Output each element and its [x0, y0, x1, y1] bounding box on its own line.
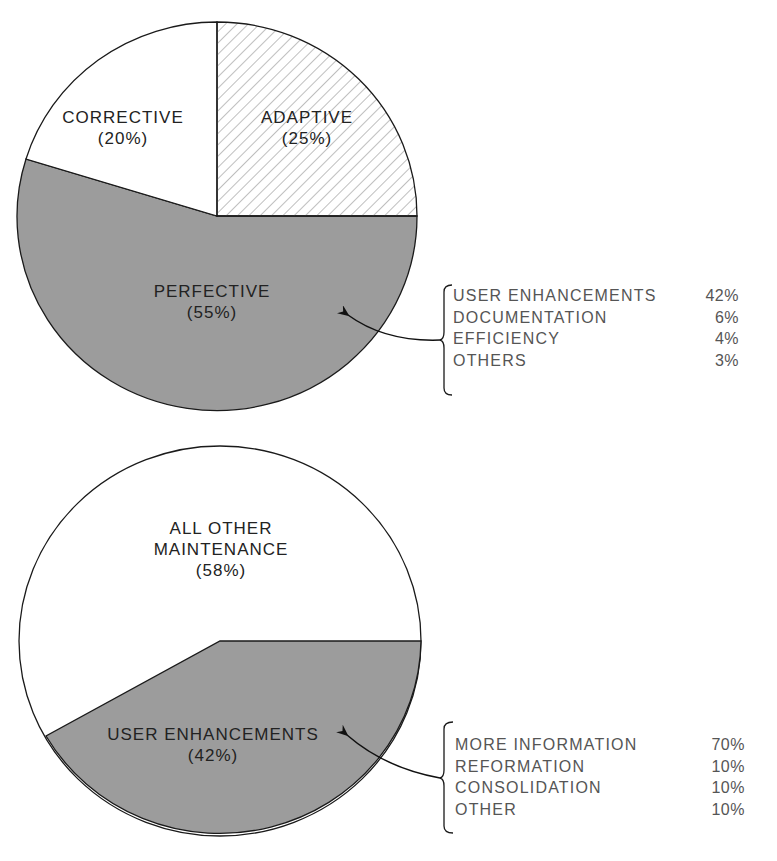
legend-row: DOCUMENTATION6% [453, 307, 739, 329]
pie-chart-2 [19, 446, 421, 836]
brace-1 [440, 285, 452, 395]
legend-row: CONSOLIDATION10% [455, 777, 745, 799]
label-all-other-line1: ALL OTHER [154, 518, 289, 539]
label-corrective: CORRECTIVE (20%) [62, 107, 183, 149]
label-adaptive: ADAPTIVE (25%) [261, 107, 353, 149]
label-all-other-line2: MAINTENANCE [154, 539, 289, 560]
label-user-enhancements-name: USER ENHANCEMENTS [107, 724, 319, 745]
label-all-other-pct: (58%) [154, 560, 289, 581]
legend-user-enhancements-breakdown: MORE INFORMATION70% REFORMATION10% CONSO… [455, 734, 745, 820]
legend-row: OTHERS3% [453, 350, 739, 372]
pie-chart-1 [17, 22, 417, 411]
label-perfective-pct: (55%) [154, 302, 271, 323]
label-perfective-name: PERFECTIVE [154, 281, 271, 302]
legend-row: OTHER10% [455, 799, 745, 821]
label-adaptive-pct: (25%) [261, 128, 353, 149]
legend-row: USER ENHANCEMENTS42% [453, 285, 739, 307]
label-user-enhancements-pct: (42%) [107, 745, 319, 766]
label-corrective-name: CORRECTIVE [62, 107, 183, 128]
label-adaptive-name: ADAPTIVE [261, 107, 353, 128]
label-user-enhancements: USER ENHANCEMENTS (42%) [107, 724, 319, 766]
label-all-other: ALL OTHER MAINTENANCE (58%) [154, 518, 289, 581]
label-corrective-pct: (20%) [62, 128, 183, 149]
brace-2 [440, 722, 453, 833]
legend-row: EFFICIENCY4% [453, 328, 739, 350]
legend-row: MORE INFORMATION70% [455, 734, 745, 756]
label-perfective: PERFECTIVE (55%) [154, 281, 271, 323]
legend-perfective-breakdown: USER ENHANCEMENTS42% DOCUMENTATION6% EFF… [453, 285, 739, 371]
legend-row: REFORMATION10% [455, 756, 745, 778]
